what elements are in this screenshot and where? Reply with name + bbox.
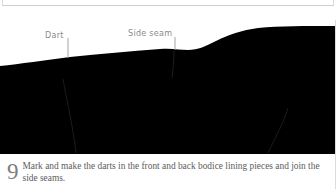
step-photo: Dart Side seam xyxy=(0,20,335,154)
step-caption-text: Mark and make the darts in the front and… xyxy=(23,159,328,184)
step-caption: 9 Mark and make the darts in the front a… xyxy=(0,154,335,189)
annotation-label-side-seam: Side seam xyxy=(128,29,172,38)
panel-gutter xyxy=(0,7,336,20)
annotation-label-dart: Dart xyxy=(45,31,64,40)
instruction-step-page: Dart Side seam 9 Mark and make the darts… xyxy=(0,0,336,189)
step-panel: Dart Side seam 9 Mark and make the darts… xyxy=(0,20,336,189)
fabric-silhouette-shape xyxy=(0,26,335,154)
fabric-silhouette-illustration xyxy=(0,20,335,154)
previous-panel-edge xyxy=(2,0,334,6)
step-number: 9 xyxy=(7,159,19,183)
